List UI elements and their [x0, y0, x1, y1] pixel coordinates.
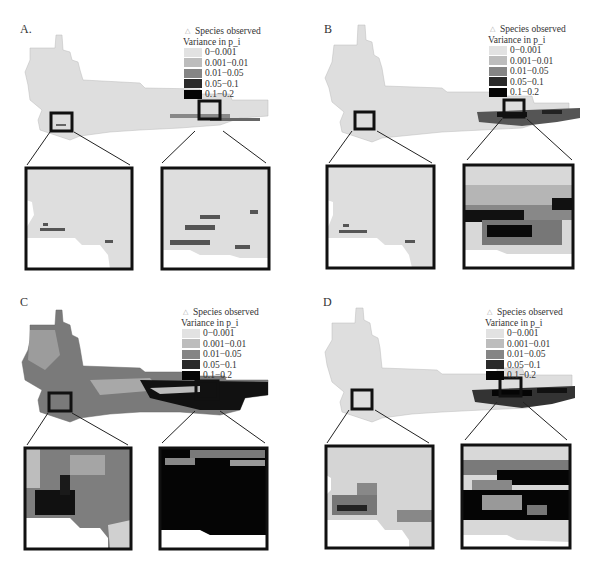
legend-row: 0−0.001 — [183, 47, 261, 58]
panel-a: A. △Species observed Variance in p — [0, 0, 297, 280]
inset-east — [464, 165, 573, 268]
legend-row: 0.01−0.05 — [485, 349, 563, 360]
legend-row: 0.1−0.2 — [485, 370, 563, 381]
legend-species: △Species observed — [488, 24, 566, 35]
legend-species: △Species observed — [181, 307, 259, 318]
legend: △Species observed Variance in p_i 0−0.00… — [183, 26, 261, 100]
triangle-icon: △ — [183, 307, 188, 318]
inset-west — [26, 168, 132, 269]
triangle-icon: △ — [185, 26, 190, 37]
legend-swatch — [184, 48, 202, 57]
legend-swatch — [184, 79, 202, 88]
legend-swatch — [182, 350, 200, 359]
legend-swatch — [489, 56, 507, 65]
inset-east — [162, 168, 269, 269]
panel-d: D △Speci — [297, 280, 594, 560]
legend-title: Variance in p_i — [485, 318, 563, 329]
legend-row: 0.05−0.1 — [183, 79, 261, 90]
legend-swatch — [486, 329, 504, 338]
legend-row: 0−0.001 — [488, 45, 566, 56]
legend-row: 0.05−0.1 — [488, 77, 566, 88]
legend-swatch — [489, 88, 507, 97]
legend-row: 0−0.001 — [181, 328, 259, 339]
triangle-icon: △ — [490, 24, 495, 35]
legend-swatch — [486, 350, 504, 359]
legend-species: △Species observed — [485, 307, 563, 318]
legend-row: 0.1−0.2 — [183, 89, 261, 100]
legend-row: 0.001−0.01 — [181, 339, 259, 350]
legend-swatch — [184, 69, 202, 78]
legend-title: Variance in p_i — [181, 318, 259, 329]
legend-swatch — [486, 360, 504, 369]
inset-east — [160, 448, 267, 549]
inset-west — [25, 448, 131, 549]
legend: △Species observed Variance in p_i 0−0.00… — [181, 307, 259, 381]
legend-swatch — [182, 360, 200, 369]
legend-row: 0.001−0.01 — [488, 56, 566, 67]
legend-swatch — [182, 339, 200, 348]
legend: △Species observed Variance in p_i 0−0.00… — [488, 24, 566, 98]
legend-swatch — [489, 67, 507, 76]
legend-row: 0.1−0.2 — [488, 87, 566, 98]
legend-row: 0.01−0.05 — [488, 66, 566, 77]
legend-row: 0.05−0.1 — [181, 360, 259, 371]
legend-title: Variance in p_i — [488, 35, 566, 46]
legend-row: 0−0.001 — [485, 328, 563, 339]
legend-swatch — [486, 339, 504, 348]
legend: △Species observed Variance in p_i 0−0.00… — [485, 307, 563, 381]
inset-west — [326, 446, 433, 548]
legend-swatch — [184, 58, 202, 67]
legend-row: 0.1−0.2 — [181, 370, 259, 381]
triangle-icon: △ — [487, 307, 492, 318]
legend-swatch — [182, 329, 200, 338]
legend-swatch — [489, 46, 507, 55]
legend-row: 0.01−0.05 — [181, 349, 259, 360]
legend-row: 0.05−0.1 — [485, 360, 563, 371]
legend-swatch — [184, 90, 202, 99]
panel-c: C — [0, 280, 297, 560]
legend-row: 0.01−0.05 — [183, 68, 261, 79]
legend-row: 0.001−0.01 — [485, 339, 563, 350]
legend-row: 0.001−0.01 — [183, 58, 261, 69]
inset-east — [462, 445, 570, 548]
legend-swatch — [489, 77, 507, 86]
inset-west — [327, 166, 434, 268]
legend-species: △Species observed — [183, 26, 261, 37]
panel-b: B △Species observed Varia — [297, 0, 594, 280]
legend-title: Variance in p_i — [183, 37, 261, 48]
legend-swatch — [486, 371, 504, 380]
legend-swatch — [182, 371, 200, 380]
